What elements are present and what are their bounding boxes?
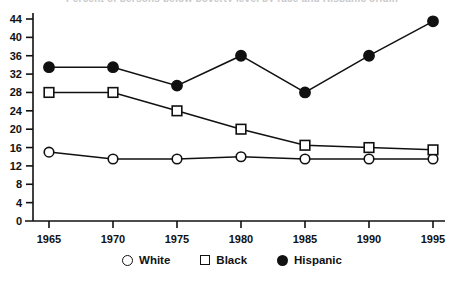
x-axis-tick-label: 1975: [165, 233, 189, 245]
chart-legend: White Black Hispanic: [0, 254, 464, 266]
data-point-marker: [108, 154, 118, 164]
x-axis-tick-label: 1985: [293, 233, 317, 245]
data-point-marker: [108, 62, 118, 72]
data-point-marker: [44, 88, 54, 98]
data-point-marker: [236, 124, 246, 134]
x-axis-tick-label: 1990: [357, 233, 381, 245]
y-axis-tick-label: 36: [10, 50, 22, 62]
data-point-marker: [364, 143, 374, 153]
x-axis-tick-label: 1980: [229, 233, 253, 245]
legend-item-white[interactable]: White: [122, 254, 170, 266]
data-point-marker: [108, 88, 118, 98]
y-axis-tick-label: 40: [10, 31, 22, 43]
line-chart-plot: 0481216202428323640441965197019751980198…: [0, 0, 464, 250]
y-axis-tick-label: 44: [10, 13, 23, 25]
x-axis-tick-label: 1965: [37, 233, 61, 245]
series-hispanic: [44, 16, 438, 98]
data-point-marker: [172, 80, 182, 90]
data-point-marker: [44, 62, 54, 72]
y-axis-tick-label: 32: [10, 68, 22, 80]
y-axis-tick-label: 20: [10, 123, 22, 135]
y-axis-tick-label: 16: [10, 142, 22, 154]
data-point-marker: [300, 154, 310, 164]
data-point-marker: [428, 145, 438, 155]
filled-circle-icon: [277, 255, 288, 266]
chart-container: Percent of persons below poverty level b…: [0, 0, 464, 281]
data-point-marker: [300, 87, 310, 97]
data-point-marker: [236, 152, 246, 162]
data-point-marker: [44, 147, 54, 157]
x-axis-tick-label: 1970: [101, 233, 125, 245]
data-point-marker: [364, 51, 374, 61]
y-axis-tick-label: 28: [10, 86, 22, 98]
y-axis-tick-label: 24: [10, 105, 23, 117]
data-point-marker: [236, 51, 246, 61]
series-black: [44, 88, 438, 155]
y-axis-tick-label: 0: [16, 215, 22, 227]
legend-label-black: Black: [216, 254, 247, 266]
legend-item-hispanic[interactable]: Hispanic: [277, 254, 342, 266]
data-point-marker: [172, 106, 182, 116]
legend-label-hispanic: Hispanic: [294, 254, 342, 266]
y-axis-tick-label: 4: [16, 197, 23, 209]
data-point-marker: [428, 154, 438, 164]
open-square-icon: [200, 255, 210, 265]
legend-item-black[interactable]: Black: [200, 254, 247, 266]
open-circle-icon: [122, 255, 133, 266]
legend-label-white: White: [139, 254, 170, 266]
data-point-marker: [300, 140, 310, 150]
y-axis-tick-label: 8: [16, 178, 22, 190]
x-axis-tick-label: 1995: [421, 233, 445, 245]
data-point-marker: [364, 154, 374, 164]
series-white: [44, 147, 438, 163]
y-axis-tick-label: 12: [10, 160, 22, 172]
data-point-marker: [172, 154, 182, 164]
data-point-marker: [428, 16, 438, 26]
